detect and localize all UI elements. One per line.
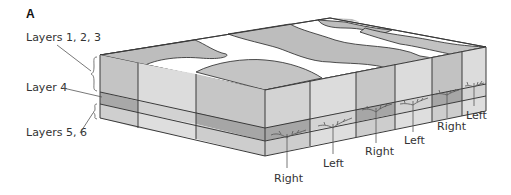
neuron-label: Right [365, 145, 395, 158]
layers-1-2-3-label: Layers 1, 2, 3 [26, 31, 101, 44]
neuron-label: Left [466, 109, 487, 122]
neuron-label: Left [404, 134, 425, 147]
neuron-label: Right [437, 120, 467, 133]
brace-icon [91, 57, 97, 91]
brace-icon [93, 104, 97, 119]
layer-labels: Layers 1, 2, 3 Layer 4 Layers 5, 6 [26, 31, 102, 139]
panel-label: A [26, 7, 35, 21]
layer-4-label: Layer 4 [26, 81, 67, 94]
layers-5-6-label: Layers 5, 6 [26, 126, 87, 139]
neuron-label: Left [323, 157, 344, 170]
neuron-label: Right [274, 172, 304, 185]
cortical-block-diagram: A [0, 0, 511, 195]
